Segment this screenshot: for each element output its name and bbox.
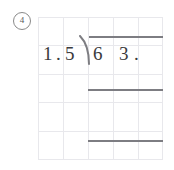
divisor-digit-2: 5 <box>65 44 75 63</box>
long-division-bracket-icon <box>79 35 91 65</box>
divisor-decimal-point: . <box>56 44 61 63</box>
dividend-digit-1: 6 <box>93 44 103 63</box>
subtraction-rule-1 <box>88 89 163 91</box>
dividend-decimal-point: . <box>134 44 139 63</box>
long-division-problem: 1 . 5 6 3 . <box>0 0 174 170</box>
subtraction-rule-2 <box>88 140 163 142</box>
division-overbar-icon <box>89 36 163 38</box>
dividend-digit-2: 3 <box>119 44 129 63</box>
divisor-digit-1: 1 <box>43 44 53 63</box>
worksheet-page: 4 1 . 5 6 3 . <box>0 0 174 170</box>
